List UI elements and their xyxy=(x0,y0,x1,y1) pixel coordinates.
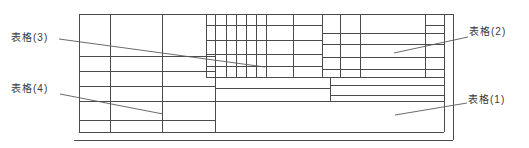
label-table1: 表格(1) xyxy=(468,94,505,106)
dense-column-grid xyxy=(206,14,444,77)
leader-line-table1 xyxy=(395,103,467,115)
inner-frame xyxy=(79,14,444,132)
leader-line-table2 xyxy=(394,37,468,53)
left-table-grid xyxy=(79,14,215,132)
table-grid-figure xyxy=(0,0,529,148)
table-grid xyxy=(74,14,453,140)
label-table2: 表格(2) xyxy=(469,26,506,38)
diagram-canvas: 表格(3) 表格(4) 表格(2) 表格(1) xyxy=(0,0,529,148)
label-table4: 表格(4) xyxy=(11,83,48,95)
label-table3: 表格(3) xyxy=(11,32,48,44)
leader-line-table4 xyxy=(60,94,163,114)
leader-lines xyxy=(59,37,468,115)
right-top-grid xyxy=(322,14,444,77)
middle-band-grid xyxy=(79,77,444,101)
